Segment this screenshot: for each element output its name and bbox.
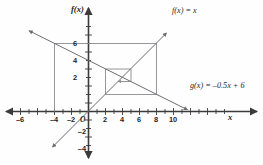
y-tick-label: 2 bbox=[73, 73, 77, 82]
x-tick-label: 10 bbox=[169, 115, 177, 124]
f-equation-label: f(x) = x bbox=[172, 6, 197, 15]
y-tick-label: 6 bbox=[73, 39, 77, 48]
x-tick-label: 8 bbox=[154, 115, 158, 124]
x-tick-labels: –6 –4 –2 2 4 6 8 10 bbox=[16, 115, 177, 124]
y-tick-label: 4 bbox=[73, 56, 78, 65]
y-tick-label: –2 bbox=[78, 127, 86, 136]
cobweb-iteration-path bbox=[55, 44, 157, 112]
function-lines-group bbox=[29, 31, 188, 147]
line-g-decreasing bbox=[29, 31, 188, 110]
x-axis-label: x bbox=[227, 112, 233, 122]
y-axis-label: f(x) bbox=[71, 4, 84, 14]
x-tick-label: 2 bbox=[103, 115, 107, 124]
x-tick-label: –6 bbox=[16, 115, 24, 124]
x-tick-label: 6 bbox=[137, 115, 141, 124]
x-tick-label: –4 bbox=[50, 115, 59, 124]
x-tick-label: 4 bbox=[120, 115, 125, 124]
x-tick-label: –2 bbox=[67, 115, 75, 124]
y-tick-label: –4 bbox=[78, 144, 87, 153]
graph-figure: f(x) x O f(x) = x g(x) = –0.5x + 6 –6 –4… bbox=[0, 0, 263, 165]
line-f-identity bbox=[53, 33, 167, 147]
g-equation-label: g(x) = –0.5x + 6 bbox=[190, 81, 245, 90]
coordinate-plane: f(x) x O f(x) = x g(x) = –0.5x + 6 –6 –4… bbox=[0, 0, 263, 165]
origin-label: O bbox=[80, 115, 86, 124]
